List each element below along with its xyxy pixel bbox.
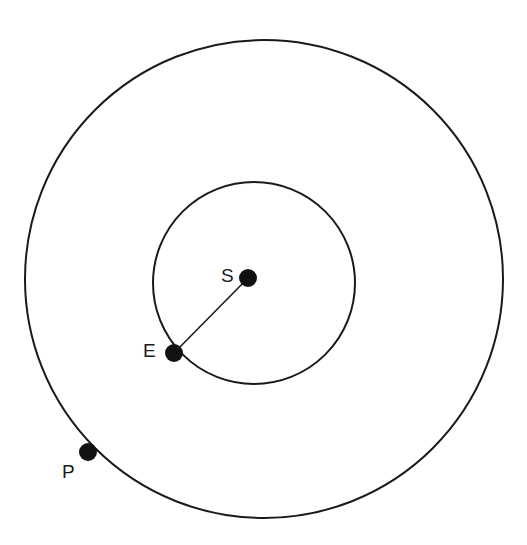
sun-dot [239,269,257,287]
earth-dot [165,344,183,362]
orbit-diagram [0,0,527,545]
outer-orbit [25,40,503,518]
sun-earth-line [174,278,248,353]
planet-dot [79,443,97,461]
planet-label: P [62,462,75,481]
sun-label: S [221,266,234,285]
earth-label: E [143,341,156,360]
